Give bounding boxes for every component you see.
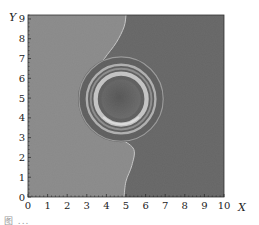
x-axis-title: X [237, 201, 247, 214]
y-tick-label: 2 [19, 152, 25, 163]
x-tick-label: 5 [123, 200, 129, 211]
figure-caption: 图 ... [4, 214, 29, 225]
y-tick-label: 6 [19, 73, 25, 84]
x-tick-label: 0 [25, 200, 31, 211]
x-tick-label: 4 [103, 200, 109, 211]
x-tick-label: 10 [218, 200, 231, 211]
x-tick-label: 6 [142, 200, 148, 211]
y-tick-label: 4 [19, 112, 25, 123]
x-tick-label: 7 [162, 200, 168, 211]
y-tick-label: 1 [19, 172, 25, 183]
x-tick-label: 2 [64, 200, 70, 211]
x-tick-label: 1 [44, 200, 50, 211]
plot-area [26, 13, 224, 199]
y-tick-label: 5 [19, 93, 25, 104]
x-tick-label: 9 [201, 200, 207, 211]
y-tick-label: 9 [19, 13, 25, 24]
x-tick-label: 3 [84, 200, 90, 211]
y-axis-title: Y [9, 11, 18, 24]
y-tick-label: 7 [19, 53, 25, 64]
chart-figure: 0123456789 012345678910 Y X [0, 0, 259, 225]
y-tick-label: 8 [19, 33, 25, 44]
y-tick-label: 3 [19, 132, 25, 143]
x-tick-label: 8 [182, 200, 188, 211]
